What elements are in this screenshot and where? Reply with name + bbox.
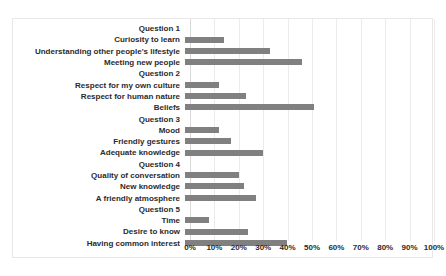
chart-row: Beliefs bbox=[13, 102, 434, 113]
x-tick-label: 30% bbox=[255, 243, 271, 253]
category-label: Mood bbox=[13, 126, 185, 135]
bar-cell bbox=[185, 23, 434, 34]
bar bbox=[185, 48, 270, 54]
x-tick-label: 100% bbox=[424, 243, 444, 253]
bar bbox=[185, 229, 248, 235]
category-label: Friendly gestures bbox=[13, 137, 185, 146]
bar-cell bbox=[185, 159, 434, 170]
category-label: Respect for human nature bbox=[13, 92, 185, 101]
x-tick-label: 50% bbox=[304, 243, 320, 253]
category-label: Curiosity to learn bbox=[13, 35, 185, 44]
bar-cell bbox=[185, 136, 434, 147]
bar-cell bbox=[185, 170, 434, 181]
category-label: Desire to know bbox=[13, 227, 185, 236]
x-tick-label: 0% bbox=[184, 243, 196, 253]
chart-row: Mood bbox=[13, 125, 434, 136]
bar bbox=[185, 138, 231, 144]
chart-bar-rows: Question 1Curiosity to learnUnderstandin… bbox=[13, 23, 434, 238]
chart-row: New knowledge bbox=[13, 181, 434, 192]
bar bbox=[185, 104, 314, 110]
category-label: Time bbox=[13, 216, 185, 225]
bar-cell bbox=[185, 46, 434, 57]
chart-row: Understanding other people's lifestyle bbox=[13, 46, 434, 57]
bar bbox=[185, 172, 239, 178]
chart-row: Meeting new people bbox=[13, 57, 434, 68]
bar-cell bbox=[185, 204, 434, 215]
x-tick-label: 70% bbox=[353, 243, 369, 253]
chart-row: Desire to know bbox=[13, 226, 434, 237]
category-label: Respect for my own culture bbox=[13, 81, 185, 90]
chart-row: Question 2 bbox=[13, 68, 434, 79]
category-label: Quality of conversation bbox=[13, 171, 185, 180]
bar bbox=[185, 82, 219, 88]
x-tick-label: 90% bbox=[402, 243, 418, 253]
chart-row: Question 5 bbox=[13, 204, 434, 215]
chart-row: A friendly atmosphere bbox=[13, 192, 434, 203]
chart-row: Curiosity to learn bbox=[13, 34, 434, 45]
category-label: Beliefs bbox=[13, 103, 185, 112]
x-tick-label: 60% bbox=[328, 243, 344, 253]
bar bbox=[185, 217, 209, 223]
x-tick-label: 80% bbox=[377, 243, 393, 253]
category-label: Question 4 bbox=[13, 160, 185, 169]
category-label: New knowledge bbox=[13, 182, 185, 191]
category-label: Question 5 bbox=[13, 205, 185, 214]
bar-cell bbox=[185, 147, 434, 158]
bar bbox=[185, 59, 302, 65]
chart-row: Friendly gestures bbox=[13, 136, 434, 147]
chart-x-axis: 0%10%20%30%40%50%60%70%80%90%100% bbox=[190, 243, 434, 257]
bar-cell bbox=[185, 57, 434, 68]
x-tick-label: 20% bbox=[231, 243, 247, 253]
category-label: Meeting new people bbox=[13, 58, 185, 67]
category-label: Adequate knowledge bbox=[13, 148, 185, 157]
category-label: A friendly atmosphere bbox=[13, 194, 185, 203]
bar-cell bbox=[185, 226, 434, 237]
chart-row: Quality of conversation bbox=[13, 170, 434, 181]
bar-cell bbox=[185, 125, 434, 136]
chart-row: Time bbox=[13, 215, 434, 226]
category-label: Question 2 bbox=[13, 69, 185, 78]
category-label: Question 1 bbox=[13, 24, 185, 33]
chart-row: Adequate knowledge bbox=[13, 147, 434, 158]
bar bbox=[185, 183, 244, 189]
bar-cell bbox=[185, 68, 434, 79]
bar-cell bbox=[185, 91, 434, 102]
category-label: Having common interest bbox=[13, 239, 185, 248]
x-tick-label: 10% bbox=[206, 243, 222, 253]
chart-plot-frame: Question 1Curiosity to learnUnderstandin… bbox=[12, 18, 433, 258]
chart-row: Respect for my own culture bbox=[13, 79, 434, 90]
chart-row: Question 4 bbox=[13, 159, 434, 170]
bar-cell bbox=[185, 181, 434, 192]
x-tick-label: 40% bbox=[280, 243, 296, 253]
bar bbox=[185, 195, 256, 201]
bar-cell bbox=[185, 79, 434, 90]
chart-row: Respect for human nature bbox=[13, 91, 434, 102]
bar bbox=[185, 150, 263, 156]
bar bbox=[185, 37, 224, 43]
chart-row: Question 1 bbox=[13, 23, 434, 34]
bar-cell bbox=[185, 113, 434, 124]
bar bbox=[185, 127, 219, 133]
bar-cell bbox=[185, 215, 434, 226]
chart-row: Question 3 bbox=[13, 113, 434, 124]
bar-cell bbox=[185, 34, 434, 45]
bar-cell bbox=[185, 192, 434, 203]
gridline-100% bbox=[434, 19, 435, 241]
bar-cell bbox=[185, 102, 434, 113]
bar bbox=[185, 93, 246, 99]
category-label: Understanding other people's lifestyle bbox=[13, 47, 185, 56]
category-label: Question 3 bbox=[13, 115, 185, 124]
